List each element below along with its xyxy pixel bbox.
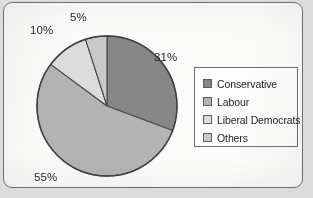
legend-swatch-icon bbox=[203, 97, 212, 106]
legend-item-label: Conservative bbox=[217, 78, 277, 90]
legend-swatch-icon bbox=[203, 115, 212, 124]
legend-item-label: Labour bbox=[217, 96, 249, 108]
slice-label-others: 5% bbox=[70, 11, 87, 23]
legend-item-labour[interactable]: Labour bbox=[203, 93, 297, 110]
legend-swatch-icon bbox=[203, 79, 212, 88]
chart-legend: ConservativeLabourLiberal DemocratsOther… bbox=[194, 67, 298, 147]
legend-swatch-icon bbox=[203, 133, 212, 142]
legend-item-label: Others bbox=[217, 132, 248, 144]
slice-label-conservative: 31% bbox=[154, 51, 177, 63]
legend-item-others[interactable]: Others bbox=[203, 129, 297, 146]
legend-item-liberal-democrats[interactable]: Liberal Democrats bbox=[203, 111, 297, 128]
legend-item-label: Liberal Democrats bbox=[217, 114, 301, 126]
scanned-page: 31% 55% 10% 5% ConservativeLabourLiberal… bbox=[0, 0, 313, 198]
slice-label-labour: 55% bbox=[34, 171, 57, 183]
legend-item-conservative[interactable]: Conservative bbox=[203, 75, 297, 92]
chart-frame: 31% 55% 10% 5% ConservativeLabourLiberal… bbox=[3, 2, 303, 188]
slice-label-liberal-democrats: 10% bbox=[30, 24, 53, 36]
